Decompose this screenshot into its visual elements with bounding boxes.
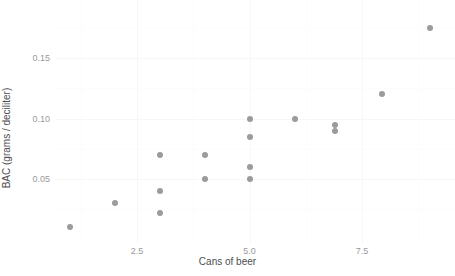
gridline-vertical-major	[137, 0, 138, 244]
gridline-horizontal-major	[56, 58, 455, 59]
data-point	[157, 210, 163, 216]
data-point	[332, 128, 338, 134]
data-point	[202, 176, 208, 182]
data-point	[247, 176, 253, 182]
data-point	[247, 134, 253, 140]
y-axis-title: BAC (grams / deciliter)	[0, 0, 14, 276]
data-point	[292, 116, 298, 122]
gridline-horizontal-major	[56, 119, 455, 120]
gridline-horizontal-minor	[56, 209, 455, 210]
x-tick-label: 5.0	[243, 246, 256, 256]
data-point	[379, 91, 385, 97]
gridline-vertical-minor	[418, 0, 419, 244]
x-tick-label: 7.5	[356, 246, 369, 256]
data-point	[247, 164, 253, 170]
gridline-horizontal-minor	[56, 88, 455, 89]
data-point	[332, 122, 338, 128]
data-point	[112, 200, 118, 206]
data-point	[427, 25, 433, 31]
scatter-chart: 0.050.100.15 2.55.07.5 Cans of beer BAC …	[0, 0, 455, 276]
gridline-vertical-minor	[193, 0, 194, 244]
gridline-vertical-major	[250, 0, 251, 244]
gridline-vertical-minor	[81, 0, 82, 244]
gridline-vertical-major	[362, 0, 363, 244]
data-point	[157, 188, 163, 194]
gridline-vertical-minor	[306, 0, 307, 244]
gridline-horizontal-minor	[56, 149, 455, 150]
gridline-horizontal-major	[56, 179, 455, 180]
data-point	[157, 152, 163, 158]
data-point	[202, 152, 208, 158]
data-point	[247, 116, 253, 122]
x-tick-label: 2.5	[131, 246, 144, 256]
plot-area	[0, 0, 455, 276]
gridline-horizontal-minor	[56, 28, 455, 29]
data-point	[67, 224, 73, 230]
x-axis-title: Cans of beer	[0, 256, 455, 267]
